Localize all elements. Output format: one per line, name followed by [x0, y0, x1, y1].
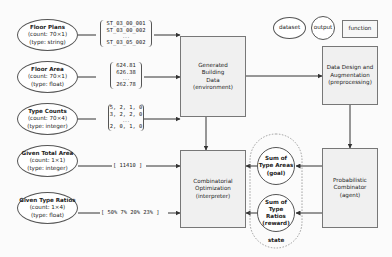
- list-value: 2, 0, 1, 0: [109, 123, 143, 130]
- function-generated-building-data: Generated Building Data (environment): [180, 36, 246, 117]
- dataset-count: (count: 70×4): [28, 115, 67, 122]
- list-value: ST_03_00_001: [103, 20, 149, 27]
- dataset-title: Floor Area: [31, 66, 64, 73]
- legend-output-label: output: [314, 24, 332, 31]
- dataset-type-counts: Type Counts (count: 70×4) (type: integer…: [17, 103, 78, 135]
- function-label: (preprocessing): [328, 79, 372, 86]
- function-label: (environment): [193, 84, 233, 91]
- function-label: Combinator: [334, 184, 367, 191]
- function-label: Data Design and: [327, 64, 374, 71]
- dataset-title: Given Total Area: [22, 150, 74, 157]
- dataset-type: (type: float): [31, 81, 64, 88]
- list-value: ST_03_05_002: [103, 39, 149, 46]
- function-label: Data: [206, 77, 219, 84]
- value-total-area: [ 11410 ]: [112, 162, 143, 168]
- state-label: state: [268, 237, 284, 243]
- legend-dataset: dataset: [273, 17, 306, 39]
- function-label: (interpreter): [196, 193, 231, 200]
- list-floor-area: 624.81 626.38 ... 262.78: [110, 62, 142, 89]
- dataset-count: (count: 1×4): [30, 204, 66, 211]
- dataset-count: (count: 70×1): [28, 73, 67, 80]
- legend-function: function: [342, 20, 378, 38]
- value-type-ratios: [ 50% 7% 20% 23% ]: [100, 209, 160, 215]
- function-label: (agent): [340, 192, 361, 199]
- list-value: 262.78: [111, 81, 141, 88]
- list-value: ST_03_00_002: [103, 27, 149, 34]
- function-label: Augmentation: [330, 72, 370, 79]
- dataset-count: (count: 1×1): [30, 157, 66, 164]
- dataset-type: (type: integer): [27, 123, 68, 130]
- list-type-counts: 5, 2, 1, 0 3, 2, 2, 0 ... 2, 0, 1, 0: [108, 104, 144, 131]
- function-label: Optimization: [195, 185, 231, 192]
- list-value: 3, 2, 2, 0: [109, 111, 143, 118]
- dataset-floor-plans: Floor Plans (count: 70×1) (type: string): [17, 19, 78, 51]
- output-label: Type Areas: [259, 162, 294, 169]
- legend-output: output: [311, 16, 335, 40]
- function-data-design: Data Design and Augmentation (preprocess…: [322, 46, 378, 105]
- dataset-type: (type: float): [31, 212, 64, 219]
- output-label: Type Ratios: [258, 206, 294, 220]
- function-label: Building: [202, 69, 225, 76]
- dataset-type: (type: integer): [27, 165, 68, 172]
- list-value: 626.38: [111, 69, 141, 76]
- output-label: (reward): [262, 220, 289, 227]
- dataset-title: Given Type Ratios: [19, 197, 75, 204]
- dataset-title: Floor Plans: [30, 24, 65, 31]
- dataset-given-total-area: Given Total Area (count: 1×1) (type: int…: [17, 145, 78, 177]
- dataset-title: Type Counts: [28, 108, 66, 115]
- function-combinatorial-optimization: Combinatorial Optimization (interpreter): [180, 150, 246, 228]
- function-label: Generated: [198, 62, 228, 69]
- dataset-floor-area: Floor Area (count: 70×1) (type: float): [17, 61, 78, 93]
- dataset-count: (count: 70×1): [28, 31, 67, 38]
- list-value: 624.81: [111, 62, 141, 69]
- output-label: Sum of: [265, 199, 287, 206]
- dataset-given-type-ratios: Given Type Ratios (count: 1×4) (type: fl…: [17, 192, 78, 224]
- output-label: Sum of: [265, 155, 287, 162]
- output-label: (goal): [267, 170, 286, 177]
- list-floor-plans: ST_03_00_001 ST_03_00_002 ... ST_03_05_0…: [100, 20, 152, 47]
- legend-dataset-label: dataset: [279, 24, 300, 31]
- legend-function-label: function: [349, 25, 372, 32]
- output-sum-type-areas: Sum of Type Areas (goal): [257, 147, 295, 185]
- function-probabilistic-combinator: Probabilistic Combinator (agent): [322, 148, 378, 228]
- function-label: Probabilistic: [333, 177, 367, 184]
- function-label: Combinatorial: [193, 178, 232, 185]
- dataset-type: (type: string): [29, 39, 66, 46]
- list-value: 5, 2, 1, 0: [109, 104, 143, 111]
- output-sum-type-ratios: Sum of Type Ratios (reward): [257, 194, 295, 232]
